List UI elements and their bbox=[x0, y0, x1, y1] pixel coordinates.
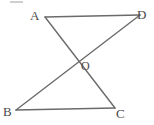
vertex-label-d: D bbox=[137, 8, 146, 21]
geometry-canvas bbox=[0, 0, 154, 125]
vertex-label-a: A bbox=[30, 9, 39, 22]
vertex-label-b: B bbox=[3, 105, 12, 118]
geometry-figure: A D B C O bbox=[0, 0, 154, 125]
segment-AD bbox=[45, 15, 140, 17]
vertex-label-c: C bbox=[116, 107, 125, 120]
segment-BD bbox=[16, 15, 140, 110]
segment-AC bbox=[45, 17, 115, 108]
vertex-label-o: O bbox=[81, 60, 90, 73]
segment-BC bbox=[16, 108, 115, 110]
